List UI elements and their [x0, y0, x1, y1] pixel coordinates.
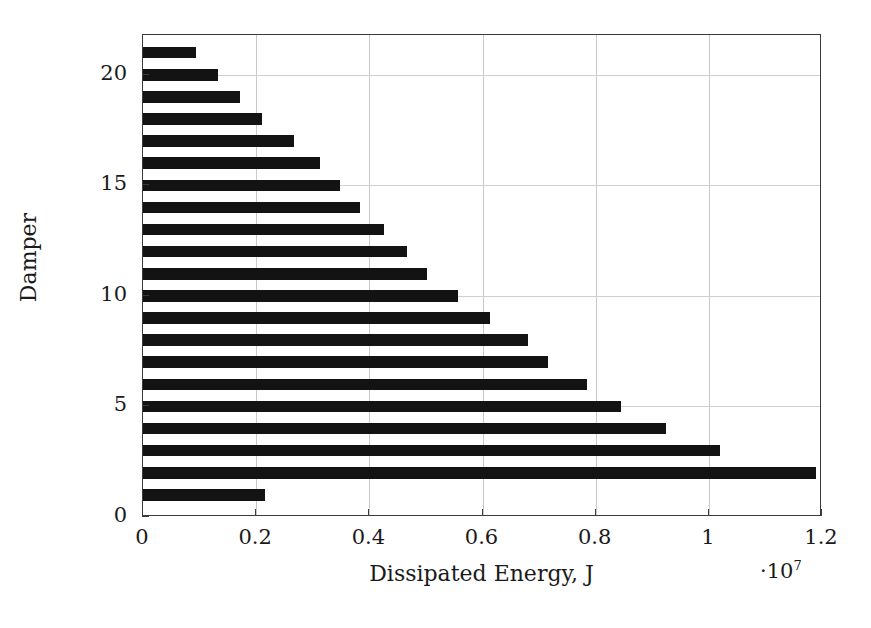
- gridline-vertical: [709, 35, 710, 515]
- bar: [143, 47, 196, 59]
- multiplier-exponent: 7: [793, 558, 801, 573]
- bar: [143, 445, 720, 457]
- bar: [143, 334, 528, 346]
- figure-container: 00.20.40.60.811.2 05101520 Dissipated En…: [0, 0, 871, 628]
- x-axis-label: Dissipated Energy, J: [142, 561, 821, 586]
- bar: [143, 113, 262, 125]
- bar: [143, 69, 218, 81]
- y-axis-label: Damper: [16, 158, 41, 358]
- x-tick-mark: [368, 509, 369, 516]
- y-tick-label: 0: [37, 505, 127, 526]
- bar: [143, 379, 587, 391]
- bar: [143, 246, 407, 258]
- x-tick-label: 0.8: [555, 527, 635, 548]
- x-tick-label: 0.4: [328, 527, 408, 548]
- multiplier-base: ·10: [760, 559, 793, 583]
- bar: [143, 423, 666, 435]
- y-tick-mark: [142, 405, 149, 406]
- y-tick-mark: [142, 184, 149, 185]
- gridline-vertical: [483, 35, 484, 515]
- bar: [143, 91, 240, 103]
- gridline-horizontal: [143, 75, 820, 76]
- bar: [143, 268, 427, 280]
- x-tick-mark: [708, 509, 709, 516]
- x-tick-label: 0.2: [215, 527, 295, 548]
- x-tick-mark: [482, 509, 483, 516]
- x-tick-label: 0.6: [442, 527, 522, 548]
- bar: [143, 224, 384, 236]
- x-tick-mark: [255, 509, 256, 516]
- x-tick-label: 1: [668, 527, 748, 548]
- bar: [143, 312, 490, 324]
- y-tick-label: 15: [37, 173, 127, 194]
- gridline-vertical: [596, 35, 597, 515]
- bar: [143, 180, 340, 192]
- bar: [143, 135, 294, 147]
- y-tick-mark: [142, 295, 149, 296]
- bar: [143, 202, 360, 214]
- plot-area: [142, 34, 821, 516]
- y-tick-label: 20: [37, 63, 127, 84]
- x-tick-label: 0: [102, 527, 182, 548]
- y-tick-label: 10: [37, 284, 127, 305]
- y-tick-mark: [142, 516, 149, 517]
- bar: [143, 489, 265, 501]
- x-axis-multiplier: ·107: [760, 558, 802, 583]
- bar: [143, 157, 320, 169]
- y-tick-mark: [142, 74, 149, 75]
- x-tick-mark: [821, 509, 822, 516]
- x-tick-label: 1.2: [781, 527, 861, 548]
- x-tick-mark: [595, 509, 596, 516]
- bar: [143, 467, 816, 479]
- x-tick-mark: [142, 509, 143, 516]
- bar: [143, 356, 548, 368]
- bar: [143, 401, 621, 413]
- bar: [143, 290, 458, 302]
- y-tick-label: 5: [37, 394, 127, 415]
